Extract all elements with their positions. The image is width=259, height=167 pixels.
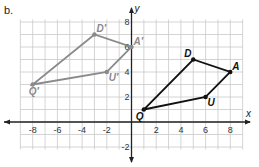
x-tick-label: 4 bbox=[178, 125, 183, 135]
vertex-label: A bbox=[231, 61, 239, 72]
x-axis-label: x bbox=[245, 108, 252, 119]
x-tick-label: 8 bbox=[228, 125, 233, 135]
vertex-label: U bbox=[208, 97, 216, 108]
vertex-label: D bbox=[184, 48, 191, 59]
x-tick-label: -4 bbox=[78, 125, 86, 135]
x-tick-label: -2 bbox=[103, 125, 111, 135]
coordinate-plane: xy -8-6-4-224688642-2 QUADQ′U′A′D′ bbox=[0, 0, 259, 167]
y-tick-label: 2 bbox=[124, 92, 129, 102]
x-tick-label: 6 bbox=[203, 125, 208, 135]
vertex-label: Q′ bbox=[29, 86, 40, 97]
y-axis-label: y bbox=[134, 3, 141, 14]
x-tick-label: -8 bbox=[29, 125, 37, 135]
vertex-label: A′ bbox=[133, 36, 144, 47]
vertex-label: D′ bbox=[96, 23, 106, 34]
y-tick-label: -2 bbox=[121, 142, 129, 152]
y-tick-label: 4 bbox=[124, 67, 129, 77]
vertex-point bbox=[191, 57, 195, 61]
x-tick-label: -6 bbox=[53, 125, 61, 135]
vertex-label: Q bbox=[136, 111, 144, 122]
y-tick-label: 8 bbox=[124, 17, 129, 27]
vertex-label: U′ bbox=[109, 72, 119, 83]
x-tick-label: 2 bbox=[154, 125, 159, 135]
